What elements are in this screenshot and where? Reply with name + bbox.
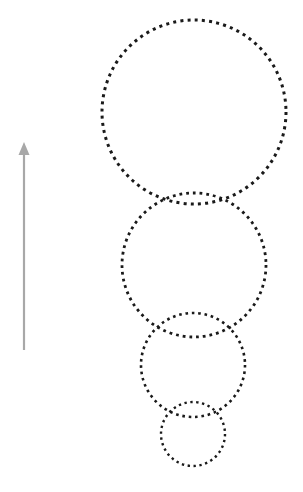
figure-svg [0,0,303,492]
figure-background [0,0,303,492]
figure-canvas [0,0,303,492]
